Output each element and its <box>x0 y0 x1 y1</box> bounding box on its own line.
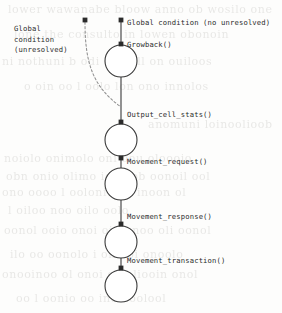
transition-dot-output-cell-stats <box>119 120 124 125</box>
transition-dot-movement-transaction <box>119 266 124 271</box>
state-node-5 <box>105 270 137 302</box>
label-global-condition-no-unresolved: Global condition (no unresolved) <box>127 18 270 28</box>
state-node-3 <box>105 168 137 200</box>
label-movement-transaction: Movement_transaction() <box>127 256 226 266</box>
transition-dot-dashed-origin <box>83 18 88 23</box>
label-output-cell-stats: Output_cell_stats() <box>127 110 212 120</box>
state-node-2 <box>105 124 137 156</box>
state-node-1 <box>105 45 137 77</box>
label-movement-response: Movement_response() <box>127 212 212 222</box>
label-movement-request: Movement_request() <box>127 157 208 167</box>
transition-dot-growback <box>119 42 124 47</box>
diagram-canvas: lower wawanabe bloow anno ob wosilo onel… <box>0 0 282 313</box>
state-node-4 <box>105 226 137 258</box>
label-global-condition-unresolved: Globalcondition(unresolved) <box>14 24 68 56</box>
label-growback: Growback() <box>127 40 172 50</box>
transition-dot-movement-response <box>119 222 124 227</box>
transition-dot-movement-request <box>119 156 124 161</box>
transition-dot-top <box>119 18 124 23</box>
